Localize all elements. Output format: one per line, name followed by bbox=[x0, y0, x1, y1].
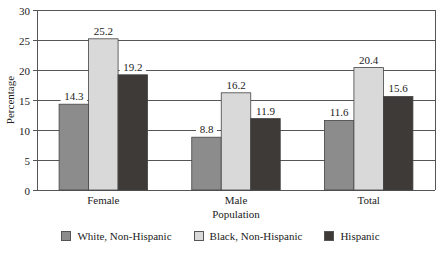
y-tick-label: 15 bbox=[19, 95, 31, 107]
bar-value-label: 11.6 bbox=[330, 106, 349, 118]
bar bbox=[192, 137, 222, 190]
bar-value-label: 25.2 bbox=[94, 25, 113, 37]
bar bbox=[354, 68, 384, 190]
bar bbox=[221, 93, 251, 190]
x-tick-label: Total bbox=[357, 194, 379, 206]
y-tick-label: 30 bbox=[19, 5, 31, 17]
y-tick-label: 5 bbox=[25, 155, 31, 167]
bar-value-label: 14.3 bbox=[64, 90, 84, 102]
legend: White, Non-HispanicBlack, Non-HispanicHi… bbox=[0, 230, 441, 242]
x-axis-label: Population bbox=[212, 208, 260, 220]
bar-value-label: 20.4 bbox=[359, 54, 379, 66]
bar bbox=[89, 39, 119, 190]
x-tick-label: Female bbox=[87, 194, 119, 206]
legend-label: Hispanic bbox=[340, 230, 379, 242]
legend-swatch-icon bbox=[61, 231, 71, 241]
bar-value-label: 19.2 bbox=[123, 61, 142, 73]
bar bbox=[118, 75, 148, 190]
bar-value-label: 15.6 bbox=[389, 82, 409, 94]
y-tick-label: 25 bbox=[19, 35, 31, 47]
legend-item: Black, Non-Hispanic bbox=[194, 230, 303, 242]
legend-item: White, Non-Hispanic bbox=[61, 230, 171, 242]
y-tick-label: 0 bbox=[25, 185, 31, 197]
legend-item: Hispanic bbox=[324, 230, 379, 242]
legend-label: Black, Non-Hispanic bbox=[210, 230, 303, 242]
y-tick-label: 10 bbox=[19, 125, 31, 137]
y-tick-label: 20 bbox=[19, 65, 31, 77]
bar-value-label: 8.8 bbox=[200, 123, 214, 135]
bar-value-label: 16.2 bbox=[226, 79, 245, 91]
legend-swatch-icon bbox=[324, 231, 334, 241]
bar bbox=[324, 120, 354, 190]
bar bbox=[251, 119, 281, 190]
y-axis-label: Percentage bbox=[4, 76, 16, 124]
bar-value-label: 11.9 bbox=[256, 105, 275, 117]
x-tick-label: Male bbox=[225, 194, 248, 206]
bar bbox=[383, 96, 413, 190]
legend-swatch-icon bbox=[194, 231, 204, 241]
bar-chart: 05101520253014.325.219.2Female8.816.211.… bbox=[0, 0, 441, 253]
bar bbox=[59, 104, 88, 190]
legend-label: White, Non-Hispanic bbox=[77, 230, 171, 242]
